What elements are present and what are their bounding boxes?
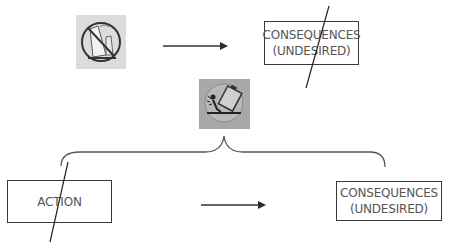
bottom-consequence-box: CONSEQUENCES (UNDESIRED) [336,181,442,221]
top-consequence-box: CONSEQUENCES (UNDESIRED) [264,21,359,65]
tipping-hazard-icon [199,79,250,129]
action-box: ACTION [7,180,112,223]
bottom-consequence-line1: CONSEQUENCES [340,185,438,201]
bottom-consequence-line2: (UNDESIRED) [350,201,428,217]
top-consequence-line1: CONSEQUENCES [263,27,361,43]
curly-brace [61,136,385,167]
action-label: ACTION [37,194,81,210]
top-consequence-line2: (UNDESIRED) [272,43,350,59]
no-tipping-icon [76,15,126,69]
